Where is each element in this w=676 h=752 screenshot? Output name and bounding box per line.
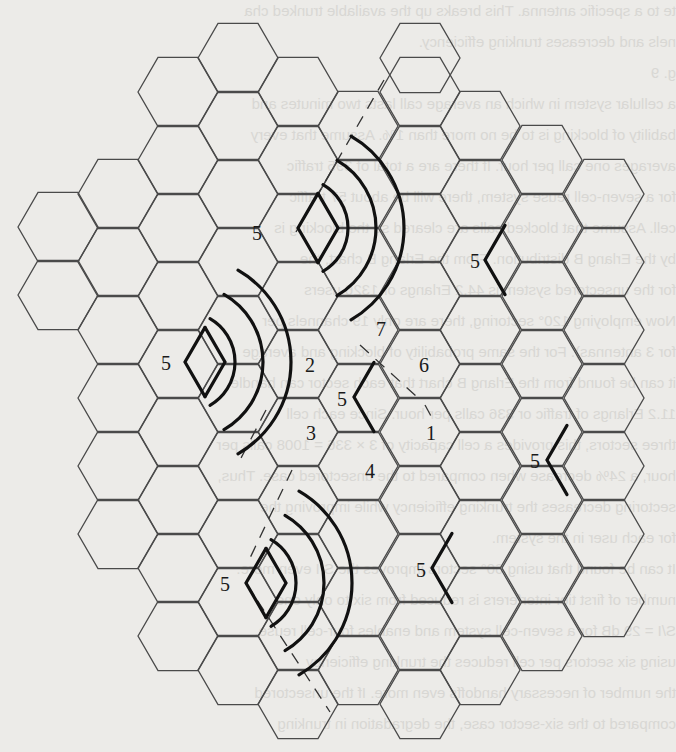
cell-number-label: 7 — [376, 318, 386, 340]
hex-cell — [198, 431, 278, 500]
hex-cell — [138, 125, 218, 194]
hex-cell — [18, 192, 98, 261]
hex-cell — [198, 363, 278, 432]
hex-cell — [78, 431, 158, 500]
hex-cell — [258, 669, 338, 738]
cochannel-cell-label: 5 — [161, 352, 171, 374]
cochannel-cell-label: 5 — [530, 450, 540, 472]
hex-cell — [138, 193, 218, 262]
radiation-arc — [224, 294, 263, 429]
sector-antenna-icon — [547, 425, 567, 494]
hex-cell — [258, 125, 338, 194]
hex-cell — [198, 567, 278, 636]
hex-cell — [138, 261, 218, 330]
hex-cell — [198, 23, 278, 92]
sector-antenna-icon — [205, 327, 225, 396]
hex-cell — [18, 260, 98, 329]
hex-cell — [258, 57, 338, 126]
sector-antenna-icon — [354, 362, 374, 431]
cell-number-label: 3 — [306, 422, 316, 444]
hex-cell — [78, 227, 158, 296]
cell-number-label: 1 — [426, 422, 436, 444]
hex-cell — [138, 533, 218, 602]
hex-cell — [198, 91, 278, 160]
hex-grid — [18, 23, 644, 738]
radiation-arcs — [210, 136, 404, 675]
cochannel-cell-label: 5 — [470, 250, 480, 272]
radiation-arc — [271, 540, 296, 627]
cell-number-label: 4 — [365, 460, 375, 482]
textbook-page: te to a specific antenna. This breaks up… — [0, 0, 676, 752]
hex-cell — [138, 397, 218, 466]
hex-cell — [198, 499, 278, 568]
sector-antenna-icon — [318, 193, 338, 262]
sector-antenna-icon — [298, 193, 318, 262]
sector-antenna-icon — [266, 548, 286, 617]
hex-cell — [138, 465, 218, 534]
hex-cell — [78, 159, 158, 228]
hex-cell — [138, 57, 218, 126]
hex-cell — [198, 159, 278, 228]
hex-cell — [138, 601, 218, 670]
cell-number-label: 2 — [305, 354, 315, 376]
sector-antenna-icon — [432, 533, 452, 602]
sector-antenna-icon — [485, 225, 505, 294]
hex-cell — [78, 499, 158, 568]
interference-path-line — [425, 405, 432, 418]
radiation-arc — [210, 319, 235, 406]
radiation-arc — [285, 515, 324, 650]
cell-number-label: 6 — [419, 354, 429, 376]
hex-cell — [258, 397, 338, 466]
hex-cell — [198, 227, 278, 296]
hex-cell — [78, 363, 158, 432]
hex-cell — [258, 329, 338, 398]
cell-number-label: 5 — [337, 388, 347, 410]
cochannel-cell-label: 5 — [252, 222, 262, 244]
sectored-hex-cell-diagram: 7614325555555 — [0, 0, 676, 752]
hex-cell — [138, 329, 218, 398]
cochannel-cell-label: 5 — [416, 559, 426, 581]
hex-cell — [198, 635, 278, 704]
hex-cell — [258, 533, 338, 602]
cochannel-cell-label: 5 — [220, 573, 230, 595]
hex-cell — [78, 295, 158, 364]
cell-labels: 7614325555555 — [161, 222, 540, 595]
